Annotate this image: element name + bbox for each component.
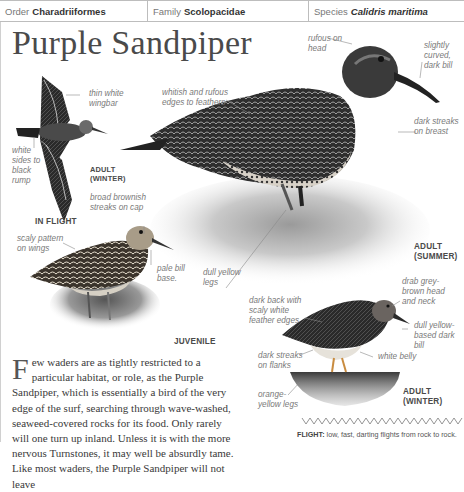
annotation-dull-yellow-legs: dull yellow legs <box>203 268 241 288</box>
annotation-dark-streaks-flanks: dark streaks on flanks <box>258 351 303 371</box>
description-text: ew waders are as tightly restricted to a… <box>12 356 234 490</box>
annotation-dull-yellow-based-bill: dull yellow- based dark bill <box>414 321 455 351</box>
flight-description: FLIGHT: low, fast, darting flights from … <box>297 430 457 439</box>
caption-in-flight: IN FLIGHT <box>35 217 77 227</box>
annotation-brownish-streaks-cap: broad brownish streaks on cap <box>90 193 146 213</box>
stage-label-adult-summer: ADULT (SUMMER) <box>414 242 457 262</box>
species-description: Few waders are as tightly restricted to … <box>12 355 237 492</box>
annotation-scaly-pattern-wings: scaly pattern on wings <box>17 234 63 254</box>
stage-label-juvenile: JUVENILE <box>174 337 216 347</box>
flight-pattern-zigzag <box>302 418 462 424</box>
annotation-dark-streaks-breast: dark streaks on breast <box>414 117 459 137</box>
drop-cap: F <box>12 356 29 382</box>
annotation-rufous-on-head: rufous on head <box>308 34 342 54</box>
annotation-white-belly: white belly <box>378 352 416 362</box>
annotation-thin-white-wingbar: thin white wingbar <box>89 89 124 109</box>
annotation-pale-bill-base: pale bill base. <box>157 264 185 284</box>
annotation-whitish-rufous-edges: whitish and rufous edges to feathers <box>162 88 228 108</box>
stage-label-adult-winter: ADULT (WINTER) <box>403 387 442 407</box>
annotation-curved-dark-bill: slightly curved, dark bill <box>424 41 452 71</box>
annotation-dark-back-scaly-edges: dark back with scaly white feather edges <box>249 296 301 326</box>
adult-summer-bird-illustration <box>120 46 440 210</box>
flight-text: low, fast, darting flights from rock to … <box>325 430 457 439</box>
stage-label-flight-adult-winter: ADULT (WINTER) <box>90 165 126 183</box>
annotation-drab-grey-brown-head: drab grey- brown head and neck <box>402 277 445 307</box>
flight-label: FLIGHT: <box>297 430 325 439</box>
annotation-white-sides-rump: white sides to black rump <box>12 146 40 186</box>
annotation-orange-yellow-legs: orange- yellow legs <box>258 390 298 410</box>
